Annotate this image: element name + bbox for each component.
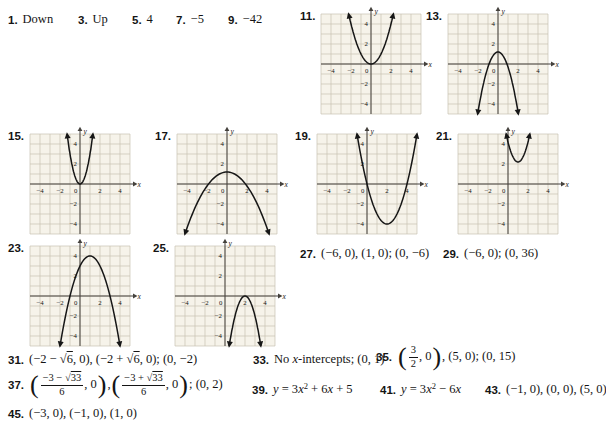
svg-text:y: y xyxy=(228,239,233,248)
answer-item: 1.Down xyxy=(8,12,53,27)
svg-text:−2: −2 xyxy=(498,200,506,207)
problem-number: 9. xyxy=(228,14,238,26)
svg-text:−4: −4 xyxy=(488,100,496,107)
svg-text:4: 4 xyxy=(74,140,78,147)
answer-text: Down xyxy=(23,12,54,26)
problem-number: 21. xyxy=(436,130,452,142)
answer-text: (−1, 0), (0, 0), (5, 0) xyxy=(506,382,606,396)
problem-number: 41. xyxy=(380,384,396,396)
svg-text:2: 2 xyxy=(365,40,369,47)
problem-number: 25. xyxy=(153,242,169,254)
problem-number: 37. xyxy=(8,379,24,391)
svg-text:−2: −2 xyxy=(348,67,356,74)
svg-text:x: x xyxy=(555,60,560,69)
big-paren-open: ( xyxy=(398,342,407,371)
big-paren-close: ) xyxy=(179,370,188,399)
problem-number: 15. xyxy=(8,130,24,142)
svg-text:4: 4 xyxy=(221,140,225,147)
answer-key-page: 1.Down3.Up5.47.−59.−4227.(−6, 0), (1, 0)… xyxy=(0,0,606,428)
answer-item: 29.(−6, 0); (0, 36) xyxy=(443,246,538,261)
answer-item: 45.(−3, 0), (−1, 0), (1, 0) xyxy=(8,406,137,421)
svg-text:−4: −4 xyxy=(323,187,331,194)
answer-text: (−3, 0), (−1, 0), (1, 0) xyxy=(29,406,137,420)
svg-text:y: y xyxy=(83,239,88,248)
svg-text:2: 2 xyxy=(98,299,102,306)
svg-text:4: 4 xyxy=(265,187,269,194)
graph-block-15: 15.yx−4−224042−2−4 xyxy=(8,126,145,236)
problem-number: 31. xyxy=(8,354,24,366)
answer-content: (−6, 0); (0, 36) xyxy=(464,246,538,261)
answer-text: + 5 xyxy=(333,382,353,396)
answer-text: (−6, 0); (0, 36) xyxy=(464,246,538,260)
svg-text:y: y xyxy=(374,7,379,16)
svg-text:−2: −2 xyxy=(56,187,64,194)
svg-text:4: 4 xyxy=(74,252,78,259)
svg-text:2: 2 xyxy=(390,67,394,74)
svg-text:−2: −2 xyxy=(488,80,496,87)
parabola-graph-25: yx−4−224042−2−4 xyxy=(172,238,290,348)
svg-text:4: 4 xyxy=(118,299,122,306)
svg-text:−2: −2 xyxy=(357,200,365,207)
answer-text: , 0 xyxy=(419,349,432,363)
svg-text:x: x xyxy=(424,180,429,189)
svg-text:−4: −4 xyxy=(181,299,189,306)
svg-text:y: y xyxy=(511,127,516,136)
svg-text:2: 2 xyxy=(221,160,225,167)
svg-text:−4: −4 xyxy=(36,187,44,194)
svg-text:4: 4 xyxy=(118,187,122,194)
svg-text:−2: −2 xyxy=(215,312,223,319)
answer-text: − 6 xyxy=(436,382,456,396)
svg-text:4: 4 xyxy=(546,187,550,194)
fraction: −3 + √336 xyxy=(122,372,165,398)
answer-item: 39.y = 3x2 + 6x + 5 xyxy=(252,382,353,397)
svg-text:4: 4 xyxy=(410,67,414,74)
svg-text:−4: −4 xyxy=(357,220,365,227)
answer-content: (−2 − √6, 0), (−2 + √6, 0); (0, −2) xyxy=(29,352,197,367)
parabola-graph-21: yx−4−224042−2−4 xyxy=(455,126,573,236)
answer-text: No xyxy=(274,352,292,366)
answer-text: , 0 xyxy=(166,377,179,391)
svg-text:y: y xyxy=(83,127,88,136)
problem-number: 23. xyxy=(8,242,24,254)
answer-text: , (5, 0); (0, 15) xyxy=(442,349,515,363)
answer-content: (−3 − √336, 0),(−3 + √336, 0); (0, 2) xyxy=(29,372,223,398)
answer-item: 3.Up xyxy=(78,12,108,27)
svg-text:0: 0 xyxy=(74,187,78,194)
svg-text:0: 0 xyxy=(74,299,78,306)
parabola-graph-11: yx−4−224042−2−4 xyxy=(318,6,436,116)
svg-text:−2: −2 xyxy=(70,312,78,319)
parabola-graph-13: yx−4−224042−2−4 xyxy=(445,6,563,116)
fraction: 32 xyxy=(409,344,418,370)
problem-number: 39. xyxy=(252,384,268,396)
svg-text:−4: −4 xyxy=(328,67,336,74)
big-paren-open: ( xyxy=(30,370,39,399)
svg-text:4: 4 xyxy=(492,20,496,27)
answer-text: + 6 xyxy=(308,382,328,396)
answer-content: y = 3x2 + 6x + 5 xyxy=(273,382,353,397)
svg-text:−2: −2 xyxy=(217,200,225,207)
problem-number: 33. xyxy=(253,354,269,366)
problem-number: 11. xyxy=(300,10,315,22)
problem-number: 45. xyxy=(8,408,24,420)
svg-text:−2: −2 xyxy=(361,80,369,87)
graph-block-11: 11.yx−4−224042−2−4 xyxy=(300,6,436,116)
parabola-graph-19: yx−4−224042−2−4 xyxy=(314,126,432,236)
answer-variable: x xyxy=(456,382,462,396)
svg-text:4: 4 xyxy=(263,299,267,306)
radicand: 6 xyxy=(133,352,139,366)
radicand: 6 xyxy=(67,352,73,366)
big-paren-open: ( xyxy=(112,370,121,399)
svg-text:−4: −4 xyxy=(70,332,78,339)
svg-text:y: y xyxy=(370,127,375,136)
svg-text:0: 0 xyxy=(492,67,496,74)
answer-text: (−6, 0), (1, 0); (0, −6) xyxy=(321,246,429,260)
answer-content: y = 3x2 − 6x xyxy=(401,382,461,397)
svg-text:4: 4 xyxy=(219,252,223,259)
answer-text: −5 xyxy=(191,12,204,26)
fraction-numerator: 3 xyxy=(409,344,418,358)
svg-text:2: 2 xyxy=(243,299,247,306)
svg-text:4: 4 xyxy=(361,140,365,147)
problem-number: 3. xyxy=(78,14,88,26)
radicand: 33 xyxy=(71,372,82,383)
answer-content: (−3, 0), (−1, 0), (1, 0) xyxy=(29,406,137,421)
